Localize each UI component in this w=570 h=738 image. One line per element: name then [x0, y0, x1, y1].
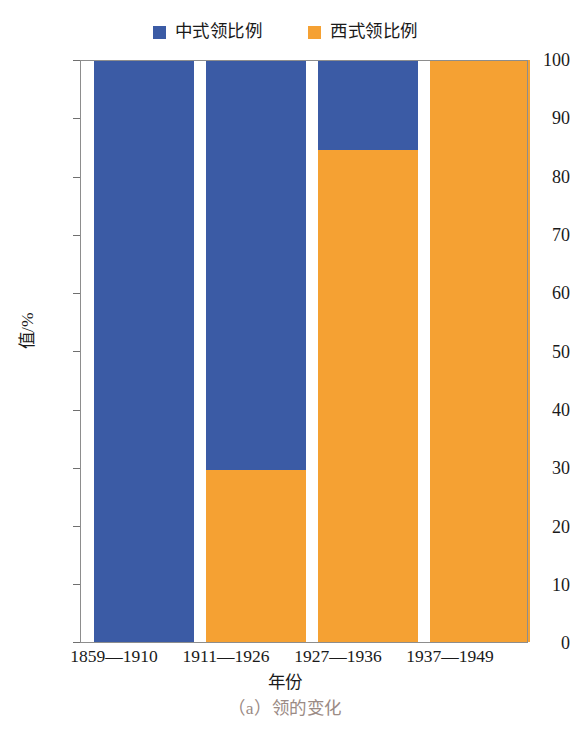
plot-right-border	[527, 60, 528, 643]
chart-legend: 中式领比例 西式领比例	[0, 18, 570, 46]
legend-swatch-orange-icon	[308, 26, 321, 39]
ytick-mark-40	[73, 410, 80, 411]
y-axis-line	[80, 60, 81, 643]
legend-label-chinese-collar: 中式领比例	[175, 23, 263, 41]
bar-segment-western-collar[interactable]	[430, 60, 530, 642]
ytick-mark-80	[73, 177, 80, 178]
ytick-mark-50	[73, 351, 80, 352]
ytick-mark-0	[73, 642, 80, 643]
ytick-mark-70	[73, 235, 80, 236]
bar-segment-chinese-collar[interactable]	[94, 60, 194, 642]
legend-swatch-blue-icon	[153, 26, 166, 39]
bar-group-1859-1910[interactable]	[94, 60, 194, 642]
x-axis-title: 年份	[0, 674, 570, 692]
plot-area	[80, 60, 527, 642]
bar-segment-western-collar[interactable]	[318, 150, 418, 642]
ytick-mark-90	[73, 118, 80, 119]
bar-segment-chinese-collar[interactable]	[318, 60, 418, 150]
bar-segment-chinese-collar[interactable]	[206, 60, 306, 470]
y-axis-title: 值/%	[19, 286, 37, 376]
figure-caption: （a）领的变化	[0, 700, 570, 718]
ytick-mark-60	[73, 293, 80, 294]
bar-group-1927-1936[interactable]	[318, 60, 418, 642]
ytick-mark-20	[73, 526, 80, 527]
legend-entry-chinese-collar: 中式领比例	[153, 23, 263, 41]
x-axis-line	[80, 642, 528, 643]
legend-label-western-collar: 西式领比例	[330, 23, 418, 41]
plot-top-border	[80, 60, 528, 61]
ytick-mark-10	[73, 584, 80, 585]
stacked-bar-chart-figure: 中式领比例 西式领比例 100 90 80 70 60 50 40 30 20 …	[0, 0, 570, 738]
xtick-label-1937-1949: 1937—1949	[380, 648, 520, 666]
bar-group-1937-1949[interactable]	[430, 60, 530, 642]
legend-entry-western-collar: 西式领比例	[308, 23, 418, 41]
ytick-mark-100	[73, 60, 80, 61]
bar-segment-western-collar[interactable]	[206, 470, 306, 642]
ytick-mark-30	[73, 468, 80, 469]
bar-group-1911-1926[interactable]	[206, 60, 306, 642]
